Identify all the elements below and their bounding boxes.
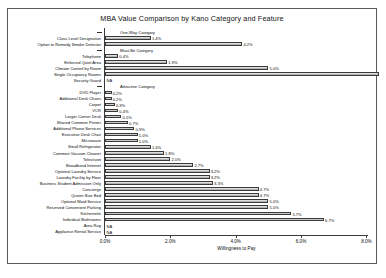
bar-value-label: 1.9%	[167, 60, 177, 65]
feature-bar	[105, 212, 291, 216]
bar-value-label: 0.2%	[112, 90, 122, 95]
feature-label: Shared Common Printer	[11, 120, 103, 125]
feature-bar	[105, 205, 268, 209]
bar-value-label: 0.5%	[121, 114, 131, 119]
feature-bar	[105, 193, 259, 197]
x-axis-tick	[236, 235, 237, 238]
bar-value-label: 0.3%	[115, 102, 125, 107]
kano-category-label: One-Way Category	[120, 30, 155, 35]
feature-bar	[105, 66, 268, 70]
axis-tick-stub	[97, 86, 102, 87]
bar-value-label: 1.8%	[164, 151, 174, 156]
feature-bar	[105, 139, 138, 143]
bar-value-label: 1.0%	[138, 132, 148, 137]
feature-label: Security Guard	[11, 78, 103, 83]
feature-label: Telephone	[11, 54, 103, 59]
feature-label: Additional Desk Chairs	[11, 96, 103, 101]
feature-label: Optional Laundry Service	[11, 169, 103, 174]
bar-value-label: 0.9%	[134, 126, 144, 131]
feature-bar	[105, 169, 210, 173]
bar-value-label: 4.7%	[259, 187, 269, 192]
bar-value-label: 4.7%	[259, 193, 269, 198]
feature-label: Individual Bathrooms	[11, 217, 103, 222]
kano-category-label: Must-Be Category	[120, 48, 153, 53]
feature-label: Television	[11, 157, 103, 162]
feature-bar	[105, 36, 151, 40]
feature-bar	[105, 72, 379, 76]
feature-label: DVD Player	[11, 90, 103, 95]
feature-label: Microwave	[11, 138, 103, 143]
bar-value-label: 5.0%	[268, 205, 278, 210]
feature-label: Climate Control by Room	[11, 66, 103, 71]
feature-label: Common Vacuum Cleaner	[11, 151, 103, 156]
bar-value-label: 0.2%	[112, 96, 122, 101]
feature-bar	[105, 54, 118, 58]
feature-label: Additional Phone Services	[11, 126, 103, 131]
bar-value-label: 0.4%	[118, 54, 128, 59]
feature-bar	[105, 163, 193, 167]
plot-area: One-Way CategoryClass Level Designation1…	[8, 28, 376, 244]
feature-label: Enforced Quiet Area	[11, 60, 103, 65]
x-axis-tick	[105, 235, 106, 238]
feature-bar	[105, 133, 138, 137]
bar-value-label: 1.0%	[138, 138, 148, 143]
feature-bar	[105, 175, 210, 179]
bar-value-label: 3.2%	[210, 169, 220, 174]
feature-label: Business Student Admission Only	[11, 181, 103, 186]
x-axis-tick	[170, 235, 171, 238]
feature-bar	[105, 42, 242, 46]
axis-tick-stub	[97, 50, 102, 51]
bar-value-label: 5.0%	[268, 66, 278, 71]
bar-value-label: 1.4%	[151, 144, 161, 149]
x-axis-tick-label: 6.0%	[296, 239, 306, 245]
feature-bar	[105, 127, 134, 131]
feature-label: Kitchenette	[11, 211, 103, 216]
feature-bar	[105, 121, 128, 125]
bar-value-label: 3.3%	[213, 181, 223, 186]
x-axis-tick-label: 2.0%	[165, 239, 175, 245]
feature-bar	[105, 109, 118, 113]
feature-label: Larger Corner Desk	[11, 114, 103, 119]
axis-tick-stub	[97, 32, 102, 33]
feature-bar	[105, 115, 121, 119]
bar-value-label: 5.7%	[291, 211, 301, 216]
feature-bar	[105, 151, 164, 155]
bar-value-label: 6.7%	[324, 217, 334, 222]
bar-value-label: NA	[107, 229, 113, 234]
kano-category-label: Attractive Category	[120, 84, 155, 89]
feature-bar	[105, 60, 167, 64]
feature-label: Appliance Rental Service	[11, 229, 103, 234]
bar-value-label: 4.2%	[242, 42, 252, 47]
feature-label: Laundry Facility by Floor	[11, 175, 103, 180]
x-axis-title: Willingness to Pay	[105, 246, 368, 251]
bar-value-label: 2.0%	[170, 157, 180, 162]
bar-value-label: 1.4%	[151, 36, 161, 41]
x-axis-tick	[301, 235, 302, 238]
feature-bar	[105, 157, 170, 161]
x-axis-tick	[366, 235, 367, 238]
feature-bar	[105, 103, 115, 107]
x-axis-tick-label: 8.0%	[361, 239, 371, 245]
x-axis-tick-label: 4.0%	[230, 239, 240, 245]
feature-label: Reserved Convenient Parking	[11, 205, 103, 210]
feature-bar	[105, 199, 268, 203]
bar-value-label: 3.2%	[210, 175, 220, 180]
feature-label: Single Occupancy Rooms	[11, 72, 103, 77]
feature-label: Optional Maid Service	[11, 199, 103, 204]
chart-title: MBA Value Comparison by Kano Category an…	[8, 14, 376, 23]
feature-bar	[105, 181, 213, 185]
y-axis-line	[104, 28, 105, 235]
x-axis-tick-label: 0.0%	[100, 239, 110, 245]
feature-label: Small Refrigerator	[11, 144, 103, 149]
feature-label: Queen Size Bed	[11, 193, 103, 198]
feature-label: Concierge	[11, 187, 103, 192]
feature-label: VCR	[11, 108, 103, 113]
bar-value-label: NA	[107, 223, 113, 228]
bar-value-label: 0.7%	[128, 120, 138, 125]
feature-bar	[105, 218, 324, 222]
feature-bar	[105, 187, 259, 191]
feature-label: Class Level Designation	[11, 36, 103, 41]
feature-label: Carpet	[11, 102, 103, 107]
bar-value-label: 0.4%	[118, 108, 128, 113]
chart-frame: MBA Value Comparison by Kano Category an…	[7, 8, 377, 264]
